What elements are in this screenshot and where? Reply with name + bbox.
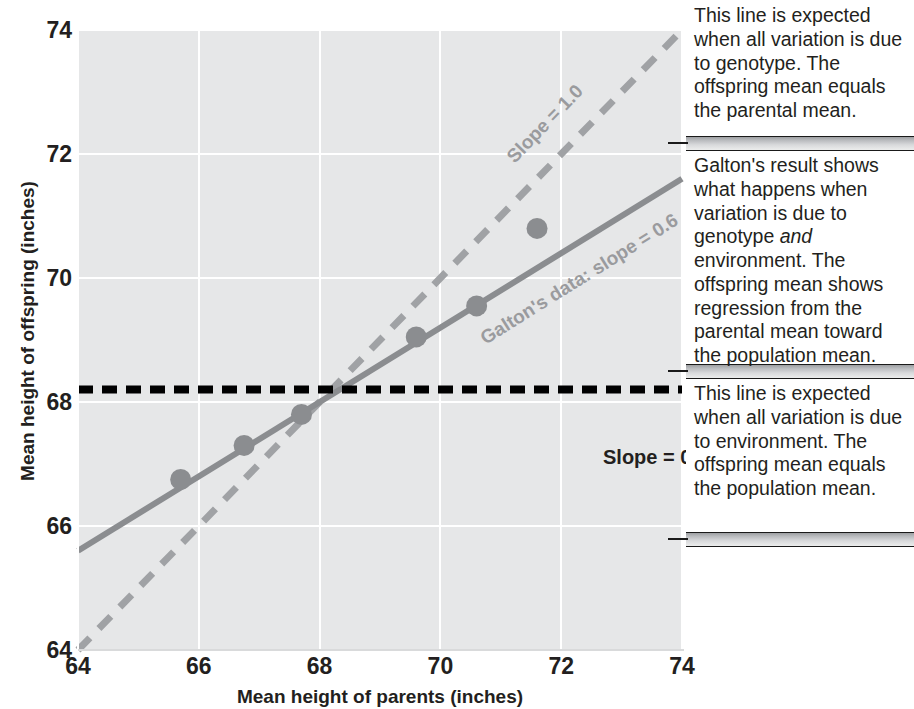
x-tick-label: 72 — [531, 655, 591, 678]
callout-2-text-after: environment. The offspring mean shows re… — [694, 249, 883, 366]
callout-connector-1 — [668, 142, 688, 144]
callout-environment-only: This line is expected when all variation… — [686, 380, 914, 532]
callout-2-emphasis: and — [780, 225, 813, 247]
callout-connector-2 — [668, 370, 688, 372]
callout-connector-3 — [668, 538, 688, 540]
x-tick-label: 64 — [48, 655, 108, 678]
x-tick-label: 70 — [410, 655, 470, 678]
galton-regression-figure: Slope = 1.0 Galton's data: slope = 0.6 S… — [0, 0, 914, 709]
x-tick-label: 66 — [169, 655, 229, 678]
x-axis-title: Mean height of parents (inches) — [78, 686, 682, 708]
callout-divider-1 — [686, 136, 914, 151]
y-axis-title: Mean height of offspring (inches) — [17, 71, 39, 591]
x-tick-label: 74 — [652, 655, 712, 678]
x-tick-label: 68 — [290, 655, 350, 678]
callout-genotype-only: This line is expected when all variation… — [686, 2, 914, 136]
callout-galton-result: Galton's result shows what happens when … — [686, 152, 914, 364]
callout-divider-3 — [686, 532, 914, 547]
